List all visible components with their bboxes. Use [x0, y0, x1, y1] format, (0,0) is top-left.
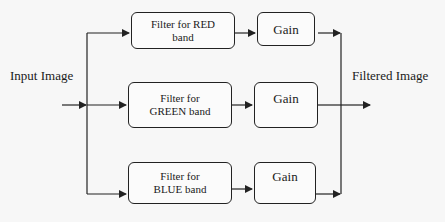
- input-image-label: Input Image: [10, 68, 73, 83]
- green-filter-block: Filter for GREEN band: [128, 82, 232, 128]
- red-filter-text: Filter for RED band: [151, 18, 215, 44]
- blue-filter-block: Filter for BLUE band: [128, 162, 232, 204]
- red-gain-block: Gain: [257, 12, 315, 46]
- green-gain-block: Gain: [254, 82, 318, 128]
- filtered-image-label: Filtered Image: [352, 68, 428, 83]
- blue-gain-block: Gain: [254, 162, 316, 204]
- red-filter-block: Filter for RED band: [131, 12, 235, 49]
- block-diagram: Input Image Filtered Image Filter for RE…: [0, 0, 445, 222]
- green-filter-text: Filter for GREEN band: [150, 92, 211, 118]
- blue-filter-text: Filter for BLUE band: [154, 170, 207, 196]
